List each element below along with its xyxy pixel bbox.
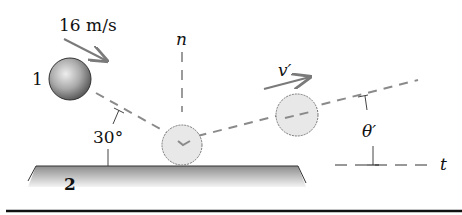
- impact-diagram: 16 m/s 1 n 30° v′ θ′ t 2: [0, 0, 462, 215]
- ball-rebound: [276, 94, 318, 136]
- ball-1: [49, 58, 91, 100]
- rebound-velocity-label: v′: [278, 60, 292, 80]
- tangent-axis-label: t: [440, 154, 447, 174]
- initial-speed-label: 16 m/s: [59, 15, 117, 35]
- ball-1-label: 1: [32, 69, 43, 89]
- normal-axis-label: n: [176, 29, 187, 49]
- rebound-angle-label: θ′: [362, 121, 376, 141]
- incident-angle-label: 30°: [93, 127, 123, 147]
- plate-2-label: 2: [64, 174, 76, 194]
